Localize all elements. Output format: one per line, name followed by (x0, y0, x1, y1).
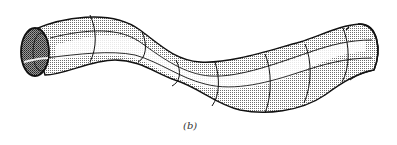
figure-caption: (b) (183, 120, 197, 131)
tube-diagram (0, 0, 397, 145)
